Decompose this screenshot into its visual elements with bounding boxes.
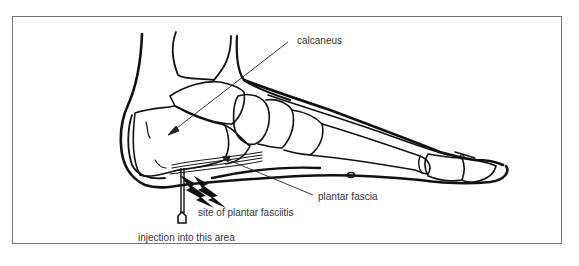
label-calcaneus: calcaneus — [297, 35, 342, 47]
dorsal-line — [244, 80, 503, 165]
label-plantar-fascia: plantar fascia — [318, 191, 377, 203]
proximal-phalanx — [425, 154, 464, 181]
label-site-of-plantar-fasciitis: site of plantar fasciitis — [198, 207, 294, 219]
pain-lightning-icon — [180, 175, 226, 208]
label-injection: injection into this area — [138, 232, 235, 244]
metatarsal — [322, 124, 430, 174]
cuneiform-1 — [258, 100, 294, 148]
fibula — [237, 36, 290, 100]
tibia — [173, 32, 231, 80]
cuneiform-2 — [284, 110, 323, 155]
calcaneus-bone — [133, 106, 228, 176]
navicular — [234, 95, 270, 145]
foot-diagram — [0, 0, 579, 266]
